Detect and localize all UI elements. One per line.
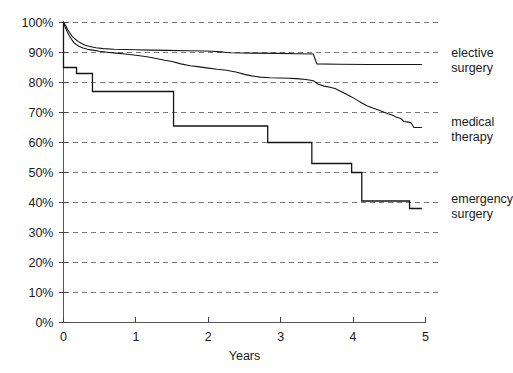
y-axis-ticks: 0%10%20%30%40%50%60%70%80%90%100% [22, 16, 68, 330]
x-tick-label: 2 [205, 330, 212, 344]
x-tick-label: 3 [277, 330, 284, 344]
series-curves [64, 23, 422, 209]
y-tick-label: 0% [35, 316, 53, 330]
series-curve-emergency-surgery [64, 23, 422, 209]
series-label-emergency-surgery-line1: emergency [451, 192, 513, 206]
x-axis-title: Years [229, 349, 261, 363]
y-tick-label: 20% [28, 256, 53, 270]
y-tick-label: 90% [28, 46, 53, 60]
x-axis-ticks: 012345 [60, 317, 429, 344]
x-tick-label: 1 [132, 330, 139, 344]
y-tick-label: 60% [28, 136, 53, 150]
series-label-medical-therapy-line2: therapy [451, 130, 493, 144]
x-tick-label: 0 [60, 330, 67, 344]
series-label-medical-therapy-line1: medical [451, 115, 494, 129]
series-label-emergency-surgery-line2: surgery [451, 207, 493, 221]
survival-chart-figure: 0%10%20%30%40%50%60%70%80%90%100% 012345… [0, 0, 513, 373]
series-labels-group: electivesurgerymedicaltherapyemergencysu… [451, 46, 513, 221]
y-tick-label: 80% [28, 76, 53, 90]
series-label-elective-surgery-line1: elective [451, 46, 493, 60]
y-tick-label: 100% [22, 16, 54, 30]
x-tick-label: 5 [422, 330, 429, 344]
y-tick-label: 30% [28, 226, 53, 240]
y-tick-label: 50% [28, 166, 53, 180]
x-tick-label: 4 [350, 330, 357, 344]
axes-group [64, 21, 426, 323]
gridlines-group [64, 23, 441, 293]
chart-canvas: 0%10%20%30%40%50%60%70%80%90%100% 012345… [0, 0, 513, 373]
y-tick-label: 40% [28, 196, 53, 210]
series-curve-elective-surgery [64, 23, 422, 65]
series-label-elective-surgery-line2: surgery [451, 61, 493, 75]
y-tick-label: 70% [28, 106, 53, 120]
series-curve-medical-therapy [64, 23, 422, 128]
y-tick-label: 10% [28, 286, 53, 300]
